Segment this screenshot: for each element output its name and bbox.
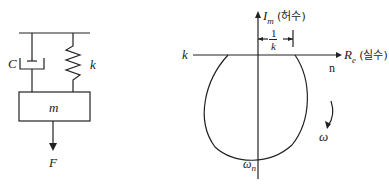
omega-n-label: ωn (243, 158, 256, 173)
omega-label: ω (319, 130, 328, 143)
left-k-label: k (182, 48, 188, 61)
mass-label: m (49, 101, 58, 114)
force-label: F (49, 156, 57, 169)
damper-icon (20, 33, 44, 92)
real-axis-label: Re (실수) (344, 48, 388, 65)
spring-icon (66, 33, 80, 92)
spring-label: k (90, 58, 96, 71)
offset-denominator: k (271, 41, 276, 52)
n-label: n (329, 62, 335, 74)
omega-direction-arrow (328, 101, 333, 126)
offset-numerator: 1 (271, 28, 277, 39)
diagram-canvas (0, 0, 389, 186)
damper-label: C (8, 57, 17, 70)
nyquist-curve (204, 55, 307, 160)
imag-axis-label: Im (허수) (263, 9, 306, 26)
